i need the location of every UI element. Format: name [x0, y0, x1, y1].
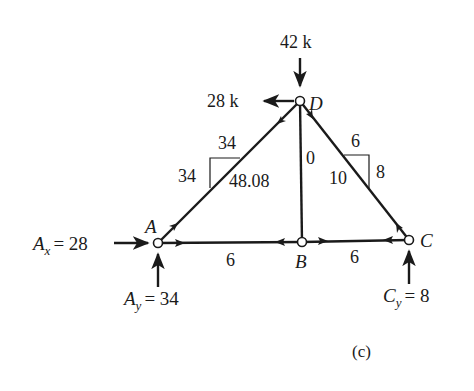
force-DB: 0 — [306, 148, 315, 168]
slope-rise-AD: 34 — [178, 166, 196, 186]
svg-text:Ax= 28: Ax= 28 — [31, 233, 88, 258]
member-DB — [300, 101, 302, 242]
force-BC: 6 — [350, 247, 359, 267]
node-label-C: C — [420, 230, 433, 251]
load-label-28k: 28 k — [207, 91, 239, 111]
svg-text:Cy= 8: Cy= 8 — [383, 285, 429, 310]
reaction-label-Cy: Cy= 8 — [383, 285, 429, 310]
node-label-D: D — [308, 93, 323, 114]
force-DC: 10 — [329, 168, 347, 188]
figure-caption: (c) — [352, 342, 371, 361]
node-A — [154, 239, 163, 248]
load-label-42k: 42 k — [280, 32, 312, 52]
force-AD: 48.08 — [229, 171, 270, 191]
slope-run-AD: 34 — [218, 133, 236, 153]
reaction-label-Ax: Ax= 28 — [31, 233, 88, 258]
member-BC — [302, 236, 409, 245]
svg-text:Ay= 34: Ay= 34 — [122, 288, 179, 313]
member-DC — [300, 101, 409, 240]
truss-diagram: D A B C 42 k 28 k 34 34 48.08 0 6 8 10 6… — [0, 0, 474, 391]
node-C — [405, 236, 414, 245]
node-B — [298, 238, 307, 247]
node-label-B: B — [295, 251, 307, 272]
slope-run-DC: 6 — [351, 131, 360, 151]
force-AB: 6 — [226, 250, 235, 270]
slope-rise-DC: 8 — [376, 162, 385, 182]
reaction-label-Ay: Ay= 34 — [122, 288, 179, 313]
member-AB — [158, 238, 302, 247]
node-D — [296, 97, 305, 106]
node-label-A: A — [143, 216, 157, 237]
